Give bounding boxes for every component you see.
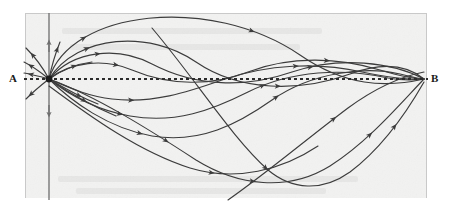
geodesic-family-figure [0, 0, 449, 212]
paper-noise-overlay [25, 13, 427, 198]
figure-root: A B [0, 0, 449, 212]
point-label-B: B [431, 73, 438, 84]
point-label-A: A [9, 73, 17, 84]
focal-point-A-node [46, 76, 53, 83]
